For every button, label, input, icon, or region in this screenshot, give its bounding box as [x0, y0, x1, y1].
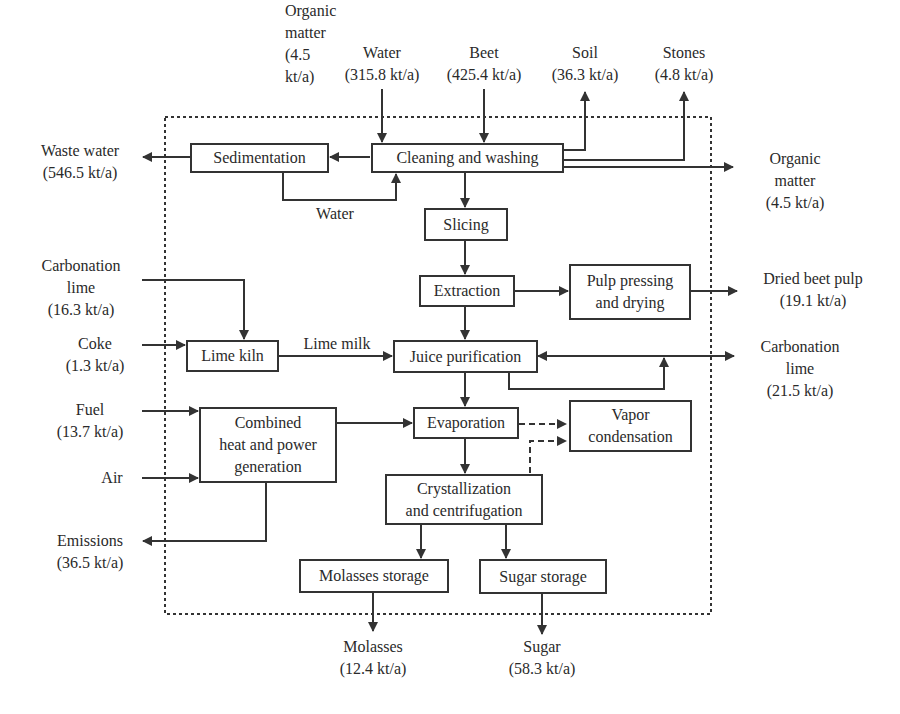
unit-molasses-storage: Molasses storage — [299, 559, 449, 593]
unit-cleaning-and-washing: Cleaning and washing — [371, 143, 564, 173]
stream-fuel-in: Fuel (13.7 kt/a) — [40, 399, 140, 443]
unit-extraction: Extraction — [419, 275, 515, 307]
stream-lime-milk: Lime milk — [287, 333, 387, 355]
stream-stones-out: Stones (4.8 kt/a) — [634, 42, 734, 86]
unit-vapor-condensation: Vapor condensation — [569, 400, 692, 452]
stream-organic-matter: Organic matter (4.5 kt/a) — [745, 148, 845, 214]
stream-beet-in: Beet (425.4 kt/a) — [424, 42, 544, 86]
stream-emissions-out: Emissions (36.5 kt/a) — [40, 530, 140, 574]
stream-dried-beet-pulp-out: Dried beet pulp (19.1 kt/a) — [738, 268, 888, 312]
unit-evaporation: Evaporation — [413, 407, 519, 439]
stream-carbonation-lime-in: Carbonation lime (16.3 kt/a) — [20, 255, 142, 321]
stream-carbonation-lime-out: Carbonation lime (21.5 kt/a) — [740, 336, 860, 402]
stream-molasses-out: Molasses (12.4 kt/a) — [318, 636, 428, 680]
stream-soil-out: Soil (36.3 kt/a) — [535, 42, 635, 86]
stream-sugar-out: Sugar (58.3 kt/a) — [487, 636, 597, 680]
unit-slicing: Slicing — [424, 208, 508, 241]
stream-coke-in: Coke (1.3 kt/a) — [50, 333, 140, 377]
unit-crystallization-and-centrifugation: Crystallization and centrifugation — [385, 474, 543, 525]
unit-pulp-pressing-and-drying: Pulp pressing and drying — [569, 264, 691, 320]
unit-lime-kiln: Lime kiln — [186, 340, 279, 372]
unit-sedimentation: Sedimentation — [190, 143, 329, 173]
stream-air-in: Air — [90, 467, 134, 489]
unit-juice-purification: Juice purification — [393, 340, 538, 373]
stream-waste-water-out: Waste water (546.5 kt/a) — [20, 140, 140, 184]
stream-water-recycle: Water — [300, 203, 370, 225]
unit-sugar-storage: Sugar storage — [479, 559, 607, 594]
unit-combined-heat-and-power: Combined heat and power generation — [199, 407, 337, 483]
